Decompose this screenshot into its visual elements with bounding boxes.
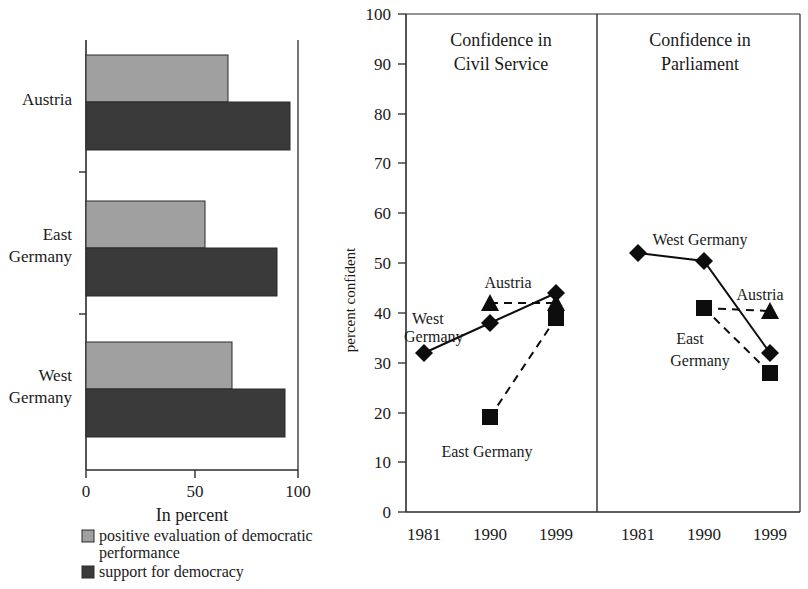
legend-swatch-positive-evaluation <box>82 530 94 542</box>
bar-x-axis-title: In percent <box>156 505 228 525</box>
annotation-east-germany-civil-service: East Germany <box>441 443 532 461</box>
panel-title-civil-service-line2: Civil Service <box>454 54 548 74</box>
annotation-west-germany-civil-service-line2: Germany <box>404 328 464 346</box>
line-y-label-70: 70 <box>374 154 391 173</box>
line-y-label-40: 40 <box>374 304 391 323</box>
line-x-label-p2-1999: 1999 <box>753 525 787 544</box>
annotation-west-germany-civil-service-line1: West <box>412 310 444 327</box>
line-y-label-90: 90 <box>374 55 391 74</box>
legend-label-support-democracy: support for democracy <box>99 563 244 581</box>
bar-chart: 0 50 100 In percent Austria East Germany… <box>9 40 313 581</box>
line-x-label-p2-1990: 1990 <box>687 525 721 544</box>
line-y-label-30: 30 <box>374 354 391 373</box>
bar-east-germany-positive-evaluation <box>86 201 205 248</box>
bar-category-label-west-germany-line1: West <box>38 366 72 385</box>
panel-title-parliament-line2: Parliament <box>661 54 739 74</box>
panel-parliament-series: West Germany Austria East Germany <box>629 231 784 381</box>
bar-austria-support-democracy <box>86 102 290 150</box>
marker-square-east-germany-1999-parliament <box>762 365 778 381</box>
bar-x-tick-label-0: 0 <box>82 482 91 501</box>
bar-west-germany-positive-evaluation <box>86 342 232 389</box>
annotation-east-germany-parliament-line2: Germany <box>670 352 730 370</box>
bar-category-label-west-germany-line2: Germany <box>9 388 73 407</box>
line-y-axis-title: percent confident <box>342 247 358 352</box>
line-y-ticks: 100 90 80 70 60 50 40 30 20 10 0 <box>366 5 407 522</box>
line-x-label-p2-1981: 1981 <box>621 525 655 544</box>
line-x-label-p1-1990: 1990 <box>473 525 507 544</box>
line-x-label-p1-1981: 1981 <box>407 525 441 544</box>
marker-diamond-west-germany-1981-civil-service <box>415 344 433 362</box>
panel-civil-service-series: West Germany Austria East Germany <box>404 274 565 461</box>
bar-east-germany-support-democracy <box>86 248 277 296</box>
bar-category-label-east-germany-line2: Germany <box>9 247 73 266</box>
bar-category-label-east-germany-line1: East <box>43 225 73 244</box>
bar-category-label-austria: Austria <box>22 90 73 109</box>
bar-west-germany-support-democracy <box>86 389 285 437</box>
line-y-label-50: 50 <box>374 254 391 273</box>
line-y-label-100: 100 <box>366 5 392 24</box>
bar-x-tick-label-100: 100 <box>285 482 311 501</box>
marker-diamond-west-germany-1990-civil-service <box>481 314 499 332</box>
marker-square-east-germany-1990-civil-service <box>482 409 498 425</box>
line-y-label-10: 10 <box>374 453 391 472</box>
annotation-austria-parliament: Austria <box>736 286 783 303</box>
marker-square-east-germany-1990-parliament <box>696 300 712 316</box>
annotation-austria-civil-service: Austria <box>484 274 531 291</box>
marker-square-east-germany-1999-civil-service <box>548 310 564 326</box>
panel-title-parliament-line1: Confidence in <box>649 30 750 50</box>
line-y-label-0: 0 <box>383 503 392 522</box>
line-y-label-20: 20 <box>374 404 391 423</box>
marker-diamond-west-germany-1981-parliament <box>629 244 647 262</box>
annotation-east-germany-parliament-line1: East <box>676 330 704 347</box>
marker-diamond-west-germany-1990-parliament <box>695 252 713 270</box>
bar-austria-positive-evaluation <box>86 55 228 102</box>
legend-swatch-support-democracy <box>82 566 94 578</box>
figure-svg: 0 50 100 In percent Austria East Germany… <box>0 0 808 589</box>
marker-diamond-west-germany-1999-parliament <box>761 344 779 362</box>
bar-x-tick-label-50: 50 <box>187 482 204 501</box>
line-y-label-60: 60 <box>374 204 391 223</box>
bar-legend: positive evaluation of democratic perfor… <box>82 527 313 581</box>
line-x-label-p1-1999: 1999 <box>539 525 573 544</box>
series-line-east-germany-civil-service <box>490 318 556 417</box>
line-y-label-80: 80 <box>374 105 391 124</box>
legend-label-positive-evaluation-line1: positive evaluation of democratic <box>99 527 313 545</box>
annotation-west-germany-parliament: West Germany <box>652 231 747 249</box>
line-chart: 100 90 80 70 60 50 40 30 20 10 0 percent… <box>342 5 800 544</box>
panel-title-civil-service-line1-visible: Confidence in <box>450 30 551 50</box>
legend-label-positive-evaluation-line2: performance <box>99 544 180 562</box>
figure-root: 0 50 100 In percent Austria East Germany… <box>0 0 808 589</box>
